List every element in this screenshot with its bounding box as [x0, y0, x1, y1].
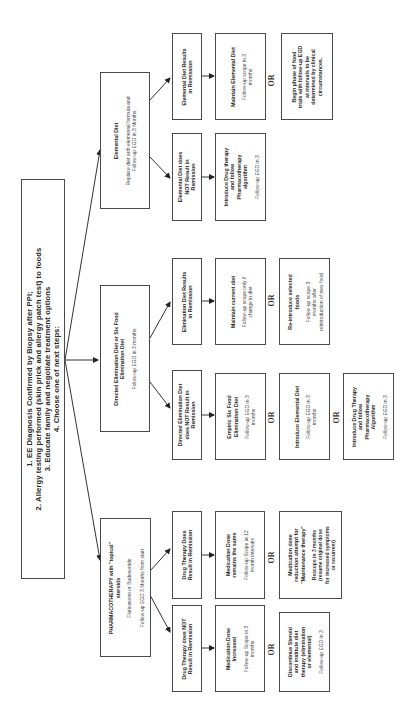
- outcome-label: Drug Therapy does NOT Result in Remissio…: [181, 618, 194, 679]
- or-label: OR: [267, 75, 276, 87]
- or-label: OR: [267, 295, 276, 307]
- elemental-remission-box: Elemental Diet Results in Remission: [172, 33, 202, 120]
- option-title: Discontinue Steroid and institute diet t…: [286, 627, 312, 677]
- elemental-diet-sub: Replace diet with elemental formula and …: [125, 96, 137, 185]
- reintroduce-foods-box: Re-introduce selected foods Follow-up sc…: [279, 258, 330, 345]
- food-trials-box: Begin phase of food trials with follow-u…: [281, 33, 333, 120]
- outcome-label: Elemental Diet Results in Remission: [181, 48, 194, 105]
- option-sub: Follow-up EGD in 3: [253, 155, 259, 198]
- or-label: OR: [267, 644, 276, 656]
- outcome-label: Elimination Diet Results in Remission: [181, 271, 194, 332]
- option-sub: Follow-up scope only if change in diet: [240, 276, 252, 327]
- discontinue-steroid-box: Discontinue Steroid and institute diet t…: [279, 612, 330, 692]
- maintain-elemental-diet-box: Maintain Elemental Diet Follow-up scope …: [215, 33, 266, 120]
- option-title: Medication dose reduction attempt for "M…: [286, 526, 305, 584]
- dose-same-box: Medication Dose remains the same Follow-…: [215, 511, 265, 599]
- option-title: Maintain current diet: [229, 275, 235, 327]
- option-title: Medication Dose remains the same: [225, 533, 238, 578]
- or-label: OR: [267, 552, 276, 564]
- pharmacotherapy-box: PHARMACOTHERAPY with "topical" steroids …: [100, 518, 151, 657]
- option-sub: Rescope in 3 months (resume original dos…: [310, 526, 335, 584]
- option-title: Introduce Drug Therapy and follow Pharma…: [350, 386, 376, 446]
- option-title: Introduce Drug therapy and follow Pharma…: [222, 148, 248, 207]
- introduce-drug-therapy-box-2: Introduce Drug Therapy and follow Pharma…: [343, 373, 394, 460]
- option-title: Re-introduce selected foods: [286, 274, 299, 329]
- option-sub: Follow-up Scope at 12 month intervals: [243, 530, 255, 580]
- root-diagnosis-box: 1. EE Diagnosis Confirmed by Biopsy afte…: [21, 179, 65, 579]
- option-sub: Follow-up EGD in 3 months: [243, 395, 255, 438]
- six-food-elimination-box: Empiric Six Food Elimination Diet Follow…: [215, 373, 266, 460]
- elimination-diet-title: Directed Elimination Diet or Six Food El…: [113, 312, 126, 405]
- option-title: Maintain Elemental Diet: [229, 47, 235, 106]
- option-sub: Follow-up Scope in 3 months: [243, 625, 255, 672]
- drug-remission-box: Drug Therapy Does Result in Remission: [172, 511, 202, 599]
- drug-no-remission-box: Drug Therapy does NOT Result in Remissio…: [172, 605, 202, 692]
- outcome-label: Drug Therapy Does Result in Remission: [181, 530, 194, 581]
- option-sub: Follow-up EGD in 3: [381, 395, 387, 438]
- introduce-elemental-diet-box: Introduce Elemental Diet Follow-up EGD i…: [279, 373, 330, 460]
- elimination-diet-sub: Follow-up EGD in 3 months: [131, 328, 137, 389]
- pharmacotherapy-sub: Fluticasone or Budesonide Follow-up EGD …: [125, 548, 144, 626]
- outcome-label: Elemental Diet does NOT Result in Remiss…: [177, 152, 196, 202]
- option-sub: Follow-up scope in 3 months: [240, 54, 252, 100]
- pharmacotherapy-title: PHARMACOTHERAPY with "topical" steroids: [107, 541, 120, 633]
- root-steps-text: 1. EE Diagnosis Confirmed by Biopsy afte…: [25, 248, 62, 511]
- elimination-diet-box: Directed Elimination Diet or Six Food El…: [100, 285, 150, 432]
- introduce-drug-therapy-box-1: Introduce Drug therapy and follow Pharma…: [215, 133, 266, 221]
- option-sub: Follow-up EGD in 3 months: [304, 395, 316, 438]
- option-title: Introduce Elemental Diet: [293, 385, 299, 447]
- option-sub: Follow-up EGD in 3: [317, 630, 323, 673]
- elimination-no-remission-box: Directed Elimination Diet does NOT Resul…: [172, 370, 202, 460]
- option-title: Empiric Six Food Elimination Diet: [225, 395, 238, 438]
- option-sub: Follow-up scope 3 months after reintrodu…: [304, 273, 323, 331]
- maintain-current-diet-box: Maintain current diet Follow-up scope on…: [215, 258, 266, 345]
- dose-increased-box: Medication Dose Increased Follow-up Scop…: [215, 605, 265, 692]
- dose-reduction-box: Medication dose reduction attempt for "M…: [279, 511, 342, 599]
- elemental-diet-title: Elemental Diet: [113, 122, 119, 159]
- or-label: OR: [267, 412, 276, 424]
- elemental-diet-box: Elemental Diet Replace diet with element…: [100, 72, 150, 209]
- option-title: Begin phase of food trials with follow-u…: [291, 45, 323, 108]
- elemental-no-remission-box: Elemental Diet does NOT Result in Remiss…: [172, 133, 202, 221]
- elimination-remission-box: Elimination Diet Results in Remission: [172, 258, 202, 345]
- option-title: Medication Dose Increased: [225, 627, 238, 669]
- outcome-label: Directed Elimination Diet does NOT Resul…: [177, 384, 196, 447]
- or-label: OR: [332, 412, 341, 424]
